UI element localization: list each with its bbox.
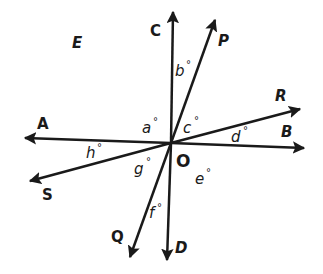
point-label-a: A <box>37 115 49 133</box>
point-label-b: B <box>281 123 292 141</box>
diagram-canvas: C P R B D Q S A E O a ° b ° c ° d ° e ° <box>0 0 323 274</box>
region-label-e: E <box>72 34 83 52</box>
svg-text:c: c <box>183 119 192 137</box>
angle-label-h: h ° <box>86 142 102 162</box>
svg-text:°: ° <box>206 167 211 178</box>
angle-label-c: c ° <box>183 115 199 137</box>
ray-oc <box>171 12 173 143</box>
svg-text:°: ° <box>146 156 151 167</box>
svg-text:h: h <box>86 144 96 162</box>
svg-text:°: ° <box>97 142 102 153</box>
svg-text:°: ° <box>153 116 158 127</box>
point-label-d: D <box>175 239 187 257</box>
point-label-p: P <box>218 32 229 50</box>
angle-label-b: b ° <box>175 59 191 80</box>
svg-text:a: a <box>142 119 151 137</box>
angle-label-f: f ° <box>149 202 162 222</box>
svg-text:e: e <box>195 170 204 188</box>
svg-text:f: f <box>149 204 157 222</box>
ray-od <box>167 143 171 260</box>
point-label-s: S <box>42 186 53 204</box>
svg-text:b: b <box>175 62 185 80</box>
angle-diagram: C P R B D Q S A E O a ° b ° c ° d ° e ° <box>0 0 323 274</box>
svg-text:°: ° <box>243 125 248 136</box>
svg-text:d: d <box>231 128 241 146</box>
svg-text:°: ° <box>194 115 199 126</box>
center-label-o: O <box>176 151 190 171</box>
point-label-q: Q <box>111 228 124 246</box>
ray-op <box>171 20 215 143</box>
svg-text:°: ° <box>186 59 191 70</box>
angle-label-d: d ° <box>231 125 248 146</box>
angle-label-a: a ° <box>142 116 158 137</box>
svg-text:°: ° <box>157 202 162 213</box>
angle-label-g: g ° <box>134 156 151 178</box>
angle-label-e: e ° <box>195 167 211 188</box>
svg-text:g: g <box>134 160 144 178</box>
point-label-r: R <box>275 87 287 105</box>
point-label-c: C <box>150 22 161 40</box>
